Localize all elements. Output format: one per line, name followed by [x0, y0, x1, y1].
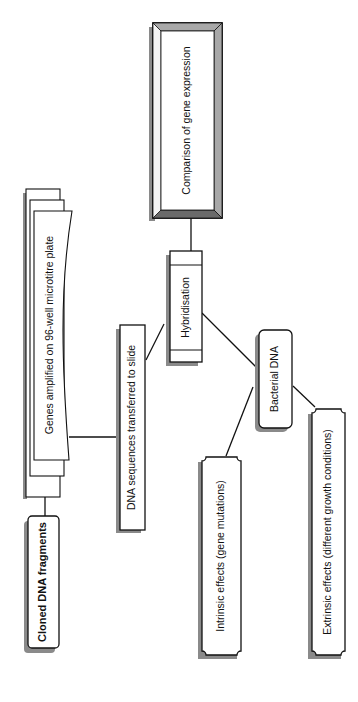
- gene-expression-flow-diagram: Comparison of gene expression Hybridisat…: [0, 0, 358, 702]
- genes-amplified-label: Genes amplified on 96-well microtitre pl…: [43, 236, 55, 435]
- node-intrinsic: Intrinsic effects (gene mutations): [198, 457, 241, 659]
- cloned-dna-label: Cloned DNA fragments: [36, 522, 48, 642]
- comparison-label: Comparison of gene expression: [180, 46, 192, 194]
- bacterial-dna-label: Bacterial DNA: [268, 346, 280, 412]
- intrinsic-label: Intrinsic effects (gene mutations): [214, 480, 226, 632]
- node-dna-sequences: DNA sequences transferred to slide: [116, 325, 145, 533]
- edge-bacterial-extrinsic: [293, 386, 315, 407]
- node-comparison: Comparison of gene expression: [149, 23, 222, 221]
- hybridisation-label: Hybridisation: [179, 277, 191, 338]
- edge-hybridisation-bacterial: [202, 313, 256, 367]
- edge-bacterial-intrinsic: [226, 387, 253, 456]
- node-extrinsic: Extrinsic effects (different growth cond…: [308, 409, 345, 659]
- dna-sequences-label: DNA sequences transferred to slide: [125, 345, 137, 510]
- extrinsic-label: Extrinsic effects (different growth cond…: [321, 429, 333, 635]
- edge-dnaseq-hybridisation: [146, 324, 164, 360]
- node-cloned-dna: Cloned DNA fragments: [24, 516, 59, 653]
- node-genes-amplified: Genes amplified on 96-well microtitre pl…: [23, 189, 72, 499]
- node-hybridisation: Hybridisation: [166, 251, 202, 366]
- node-bacterial-dna: Bacterial DNA: [255, 330, 292, 432]
